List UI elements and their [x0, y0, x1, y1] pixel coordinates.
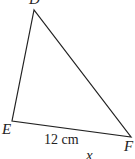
vertex-label-e: E [1, 121, 11, 137]
side-ef-length: 12 cm [44, 132, 79, 147]
vertex-label-d: D [28, 0, 40, 7]
triangle-svg: D E F 12 cm x [0, 0, 135, 159]
extra-label-x: x [85, 147, 93, 159]
vertex-label-f: F [123, 138, 134, 154]
triangle-diagram: D E F 12 cm x [0, 0, 135, 159]
triangle-def [12, 10, 131, 137]
